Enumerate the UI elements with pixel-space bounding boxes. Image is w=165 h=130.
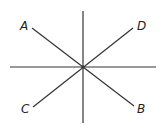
label-a: A [19, 19, 28, 33]
intersecting-lines-diagram: A D C B [0, 0, 165, 130]
intersection-point [82, 66, 85, 69]
label-d: D [137, 19, 146, 33]
label-b: B [137, 102, 145, 116]
label-c: C [21, 102, 30, 116]
